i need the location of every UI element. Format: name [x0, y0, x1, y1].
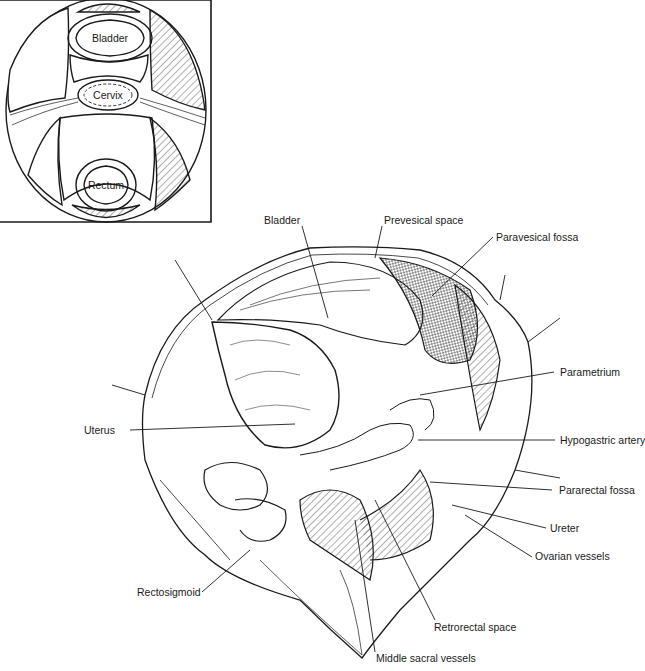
leader-prevesical-space [375, 226, 382, 258]
label-ureter: Ureter [550, 522, 579, 534]
leader-rectosigmoid [202, 550, 250, 592]
label-hypogastric-artery: Hypogastric artery [560, 434, 645, 446]
inset-label-bladder: Bladder [92, 32, 128, 44]
inset-label-rectum: Rectum [88, 179, 124, 191]
label-pararectal-fossa: Pararectal fossa [559, 484, 635, 496]
leader-bladder [302, 226, 328, 318]
inset-label-cervix: Cervix [93, 89, 123, 101]
label-bladder: Bladder [264, 214, 300, 226]
label-parametrium: Parametrium [560, 366, 620, 378]
label-ovarian-vessels: Ovarian vessels [535, 550, 610, 562]
label-uterus: Uterus [84, 424, 115, 436]
label-middle-sacral-vessels: Middle sacral vessels [376, 652, 476, 664]
label-retrorectal-space: Retrorectal space [434, 621, 516, 633]
leader-ureter [452, 505, 546, 528]
leader-pararectal-fossa [430, 482, 552, 490]
label-paravesical-fossa: Paravesical fossa [496, 231, 578, 243]
leader-uterus [130, 424, 295, 430]
label-prevesical-space: Prevesical space [384, 214, 463, 226]
label-rectosigmoid: Rectosigmoid [137, 586, 201, 598]
